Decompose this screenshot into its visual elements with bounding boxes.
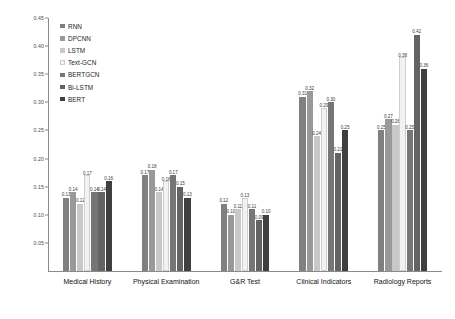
bar-rect: 0.15 xyxy=(177,187,183,271)
bar-text-gcn[interactable]: 0.16 xyxy=(163,18,169,271)
bar-rect: 0.32 xyxy=(307,91,313,271)
bar-lstm[interactable]: 0.14 xyxy=(156,18,162,271)
bar-rect: 0.14 xyxy=(98,192,104,271)
legend-item-text-gcn[interactable]: Text-GCN xyxy=(60,57,99,69)
bar-value-label: 0.16 xyxy=(104,176,113,181)
legend-item-bert[interactable]: BERT xyxy=(60,93,99,105)
bar-value-label: 0.36 xyxy=(419,63,428,68)
y-axis-tick-label: 0.20 xyxy=(34,156,45,162)
bar-lstm[interactable]: 0.11 xyxy=(235,18,241,271)
bar-text-gcn[interactable]: 0.13 xyxy=(242,18,248,271)
legend-label: DPCNN xyxy=(68,35,91,42)
bar-bi-lstm[interactable]: 0.42 xyxy=(414,18,420,271)
bar-rect: 0.26 xyxy=(392,125,398,271)
y-axis-tick-label: 0.45 xyxy=(34,15,45,21)
legend-label: BERT xyxy=(68,96,85,103)
legend-item-lstm[interactable]: LSTM xyxy=(60,44,99,56)
bar-rect: 0.25 xyxy=(378,130,384,271)
bar-dpcnn[interactable]: 0.32 xyxy=(307,18,313,271)
plot-area: 0.450.400.350.300.250.200.150.100.050.13… xyxy=(48,18,442,271)
bar-bert[interactable]: 0.16 xyxy=(106,18,112,271)
bar-bert[interactable]: 0.13 xyxy=(184,18,190,271)
legend-item-dpcnn[interactable]: DPCNN xyxy=(60,32,99,44)
bar-bert[interactable]: 0.10 xyxy=(263,18,269,271)
legend-item-bi-lstm[interactable]: Bi-LSTM xyxy=(60,81,99,93)
chart-legend: RNNDPCNNLSTMText-GCNBERTGCNBi-LSTMBERT xyxy=(60,20,99,105)
bar-value-label: 0.11 xyxy=(234,204,242,209)
bar-cluster: 0.250.270.260.380.250.420.36 xyxy=(363,18,442,271)
bar-bi-lstm[interactable]: 0.21 xyxy=(335,18,341,271)
bar-bert[interactable]: 0.25 xyxy=(342,18,348,271)
bar-rect: 0.30 xyxy=(328,102,334,271)
bar-rect: 0.10 xyxy=(263,215,269,271)
bar-bertgcn[interactable]: 0.17 xyxy=(170,18,176,271)
bar-rect: 0.38 xyxy=(399,57,405,271)
bar-chart: 0.450.400.350.300.250.200.150.100.050.13… xyxy=(0,0,455,319)
legend-label: Text-GCN xyxy=(68,59,96,66)
bar-rect: 0.13 xyxy=(242,198,248,271)
legend-swatch-icon xyxy=(60,97,65,102)
bar-rect: 0.29 xyxy=(321,108,327,271)
bar-bertgcn[interactable]: 0.30 xyxy=(328,18,334,271)
bar-rnn[interactable]: 0.17 xyxy=(142,18,148,271)
bar-rect: 0.17 xyxy=(170,175,176,271)
bar-rect: 0.36 xyxy=(421,69,427,271)
bar-dpcnn[interactable]: 0.10 xyxy=(228,18,234,271)
bar-rect: 0.25 xyxy=(342,130,348,271)
x-axis-line xyxy=(48,271,442,272)
bar-bert[interactable]: 0.36 xyxy=(421,18,427,271)
bar-rect: 0.13 xyxy=(184,198,190,271)
bar-group: 0.310.320.240.290.300.210.25Clinical Ind… xyxy=(284,18,363,271)
bar-rect: 0.11 xyxy=(235,209,241,271)
bar-rect: 0.24 xyxy=(314,136,320,271)
y-axis-tick-label: 0.10 xyxy=(34,212,45,218)
bar-bi-lstm[interactable]: 0.09 xyxy=(256,18,262,271)
legend-item-bertgcn[interactable]: BERTGCN xyxy=(60,69,99,81)
y-axis-tick-label: 0.40 xyxy=(34,43,45,49)
bar-bertgcn[interactable]: 0.25 xyxy=(407,18,413,271)
bar-rect: 0.09 xyxy=(256,220,262,271)
bar-rect: 0.17 xyxy=(142,175,148,271)
bar-rnn[interactable]: 0.31 xyxy=(299,18,305,271)
bar-cluster: 0.310.320.240.290.300.210.25 xyxy=(284,18,363,271)
bar-rect: 0.13 xyxy=(63,198,69,271)
bar-value-label: 0.11 xyxy=(248,204,256,209)
bar-rnn[interactable]: 0.25 xyxy=(378,18,384,271)
bar-dpcnn[interactable]: 0.18 xyxy=(149,18,155,271)
bar-text-gcn[interactable]: 0.38 xyxy=(399,18,405,271)
bar-rect: 0.16 xyxy=(163,181,169,271)
bar-rect: 0.10 xyxy=(228,215,234,271)
bar-group: 0.120.100.110.130.110.090.10G&R Test xyxy=(206,18,285,271)
legend-swatch-icon xyxy=(60,85,65,90)
legend-swatch-icon xyxy=(60,24,65,29)
y-axis-tick-label: 0.05 xyxy=(34,240,45,246)
bar-lstm[interactable]: 0.24 xyxy=(314,18,320,271)
y-axis-tick-label: 0.35 xyxy=(34,71,45,77)
legend-label: LSTM xyxy=(68,47,85,54)
x-axis-category-label: Physical Examination xyxy=(127,278,206,285)
bar-rect: 0.14 xyxy=(91,192,97,271)
bar-rect: 0.31 xyxy=(299,97,305,271)
bar-rect: 0.18 xyxy=(149,170,155,271)
legend-item-rnn[interactable]: RNN xyxy=(60,20,99,32)
x-axis-category-label: Radiology Reports xyxy=(363,278,442,285)
legend-label: BERTGCN xyxy=(68,71,99,78)
bar-dpcnn[interactable]: 0.27 xyxy=(385,18,391,271)
y-axis-tick-label: 0.25 xyxy=(34,127,45,133)
bar-cluster: 0.120.100.110.130.110.090.10 xyxy=(206,18,285,271)
bar-bertgcn[interactable]: 0.11 xyxy=(249,18,255,271)
x-axis-category-label: G&R Test xyxy=(206,278,285,285)
legend-swatch-icon xyxy=(60,36,65,41)
legend-label: Bi-LSTM xyxy=(68,84,93,91)
legend-label: RNN xyxy=(68,23,82,30)
y-axis-tick-label: 0.30 xyxy=(34,99,45,105)
bar-rect: 0.25 xyxy=(407,130,413,271)
bar-bi-lstm[interactable]: 0.15 xyxy=(177,18,183,271)
x-axis-category-label: Medical History xyxy=(48,278,127,285)
bar-rect: 0.12 xyxy=(77,204,83,271)
bar-text-gcn[interactable]: 0.29 xyxy=(321,18,327,271)
bar-rect: 0.21 xyxy=(335,153,341,271)
bar-group: 0.170.180.140.160.170.150.13Physical Exa… xyxy=(127,18,206,271)
bar-rect: 0.14 xyxy=(70,192,76,271)
bar-rnn[interactable]: 0.12 xyxy=(221,18,227,271)
